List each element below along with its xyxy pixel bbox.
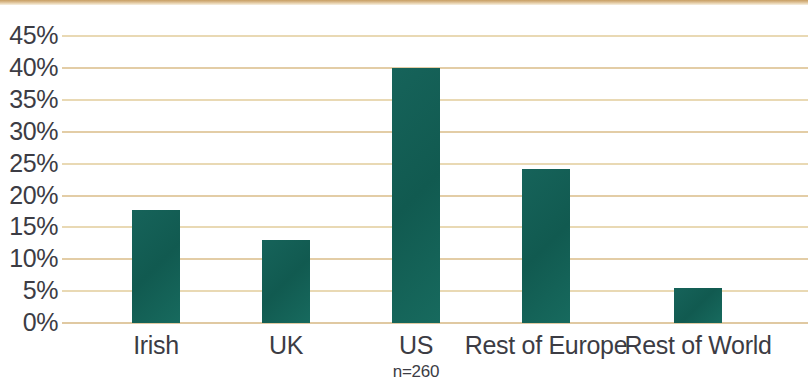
y-tick-label: 40% [2,55,58,80]
y-tick-label: 30% [2,119,58,144]
gridline-45 [62,35,808,37]
bar-chart: 45%40%35%30%25%20%15%10%5%0% IrishUKUSRe… [0,0,808,391]
y-tick-label: 15% [2,214,58,239]
bar-us[interactable] [392,68,440,323]
x-tick-label-rest-of-world: Rest of World [568,330,808,360]
sample-size-note: n=260 [316,362,516,382]
y-tick-label: 35% [2,87,58,112]
plot-area [62,25,808,324]
y-tick-label: 10% [2,246,58,271]
bar-rest-of-world[interactable] [674,288,722,323]
y-tick-label: 20% [2,183,58,208]
top-divider-rule [0,0,808,4]
y-tick-label: 5% [2,278,58,303]
y-tick-label: 45% [2,23,58,48]
bar-irish[interactable] [132,210,180,323]
y-axis: 45%40%35%30%25%20%15%10%5%0% [0,25,58,324]
bar-rest-of-europe[interactable] [522,169,570,323]
y-tick-label: 25% [2,151,58,176]
bar-uk[interactable] [262,240,310,323]
